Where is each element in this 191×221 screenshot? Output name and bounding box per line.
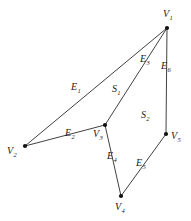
vertex-label-v4: V4 xyxy=(115,202,124,212)
vertex-label-v5: V5 xyxy=(171,131,180,141)
edge-label-e4: E4 xyxy=(107,151,116,161)
surface-label-subscript: 2 xyxy=(146,115,149,122)
edge-label-subscript: 5 xyxy=(142,163,145,170)
vertex-label-subscript: 4 xyxy=(121,207,124,214)
vertex-label-v1: V1 xyxy=(163,9,172,19)
surface-label-subscript: 1 xyxy=(117,89,120,96)
vertex-label-v2: V2 xyxy=(7,146,16,156)
surface-label-s1: S1 xyxy=(112,84,120,94)
vertex-v5 xyxy=(164,132,168,136)
edge-label-subscript: 3 xyxy=(146,59,149,66)
vertex-v3 xyxy=(103,123,107,127)
vertex-label-subscript: 1 xyxy=(169,14,172,21)
graph-diagram: V1V2V3V4V5E1E2E3E4E5E6S1S2 xyxy=(0,0,191,221)
vertex-label-v3: V3 xyxy=(93,129,102,139)
vertex-label-subscript: 2 xyxy=(13,151,16,158)
vertex-label-subscript: 3 xyxy=(99,134,102,141)
edge-label-e2: E2 xyxy=(65,128,74,138)
vertex-v1 xyxy=(165,26,169,30)
vertex-label-subscript: 5 xyxy=(177,136,180,143)
edge-e3 xyxy=(105,28,167,125)
edge-label-e1: E1 xyxy=(71,82,80,92)
edge-label-e6: E6 xyxy=(161,61,170,71)
edge-label-subscript: 6 xyxy=(167,66,170,73)
edge-label-subscript: 1 xyxy=(77,87,80,94)
vertex-v4 xyxy=(119,194,123,198)
edge-label-e3: E3 xyxy=(140,54,149,64)
edge-label-subscript: 2 xyxy=(71,133,74,140)
edge-label-e5: E5 xyxy=(136,158,145,168)
vertex-v2 xyxy=(23,144,27,148)
graph-canvas xyxy=(0,0,191,221)
surface-label-s2: S2 xyxy=(141,110,149,120)
edge-e6 xyxy=(166,28,167,134)
edge-label-subscript: 4 xyxy=(113,156,116,163)
